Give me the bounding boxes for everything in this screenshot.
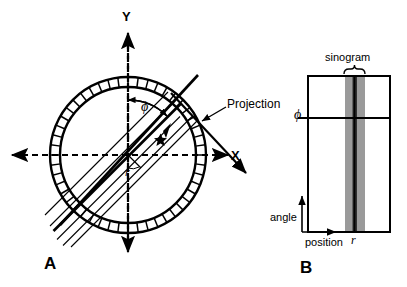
detector-segment-divider — [108, 221, 111, 231]
projection-leader-line — [202, 107, 226, 121]
y-axis-label: Y — [122, 10, 131, 23]
figure-container: Y X ϕ r Projection A sinogram ϕ angle po… — [0, 0, 407, 287]
r-marker-label-b: r — [351, 234, 356, 246]
detector-segment-divider — [154, 218, 158, 227]
angle-axis-label: angle — [270, 212, 297, 223]
detector-segment-divider — [169, 209, 175, 217]
panel-a-group — [12, 33, 246, 252]
detector-segment-divider — [73, 100, 80, 107]
detector-segment-divider — [98, 83, 102, 92]
figure-svg — [0, 0, 407, 287]
sinogram-brace — [344, 65, 365, 74]
panel-a-label: A — [44, 255, 56, 272]
detector-segment-divider — [195, 164, 205, 165]
detector-segment-divider — [66, 196, 74, 202]
detector-segment-divider — [187, 189, 196, 194]
phi-marker-label-b: ϕ — [294, 108, 301, 122]
ray-line — [71, 120, 198, 247]
detector-segment-divider — [81, 93, 87, 101]
detector-segment-divider — [146, 80, 149, 90]
detector-segment-divider — [118, 222, 119, 232]
projection-label: Projection — [227, 98, 280, 110]
detector-segment-divider — [194, 135, 204, 138]
ray-direction-arrow — [163, 123, 171, 138]
detector-segment-divider — [51, 164, 61, 165]
detector-segment-divider — [194, 173, 204, 176]
detector-segment-divider — [53, 173, 63, 176]
radius-label-a: r — [125, 166, 130, 178]
detector-segment-divider — [195, 145, 205, 146]
x-axis-label: X — [231, 149, 240, 162]
detector-segment-divider — [60, 116, 69, 121]
position-axis-label: position — [305, 237, 343, 248]
detector-segment-divider — [51, 145, 61, 146]
detector-segment-divider — [66, 108, 74, 114]
detector-segment-divider — [108, 80, 111, 90]
detector-segment-divider — [154, 83, 158, 92]
detector-segment-divider — [56, 125, 65, 129]
detector-segment-divider — [191, 181, 200, 185]
panel-b-group — [298, 65, 390, 232]
detector-segment-divider — [137, 222, 138, 232]
detector-segment-divider — [146, 221, 149, 231]
sinogram-label: sinogram — [325, 52, 370, 63]
detector-segment-divider — [53, 135, 63, 138]
phi-angle-label: ϕ — [141, 100, 148, 114]
detector-segment-divider — [137, 78, 138, 88]
detector-segment-divider — [89, 87, 94, 96]
panel-b-label: B — [300, 259, 312, 276]
detector-segment-divider — [182, 196, 190, 202]
detector-segment-divider — [56, 181, 65, 185]
detector-segment-divider — [162, 214, 167, 223]
detector-segment-divider — [176, 203, 183, 210]
detector-segment-divider — [118, 78, 119, 88]
ray-line — [57, 117, 180, 240]
